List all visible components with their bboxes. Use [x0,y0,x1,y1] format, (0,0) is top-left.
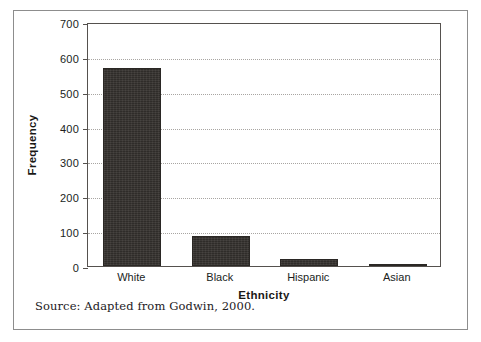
plot-area: 0100200300400500600700 [87,23,441,267]
x-axis-tick-label: White [87,271,176,283]
y-axis-tick [83,24,88,25]
y-axis-tick-label: 700 [60,18,79,30]
y-axis-tick [83,59,88,60]
y-axis-tick [83,163,88,164]
y-axis-title: Frequency [26,115,38,176]
source-note: Source: Adapted from Godwin, 2000. [35,299,255,313]
y-axis-tick [83,233,88,234]
x-axis-tick-label: Asian [353,271,442,283]
y-axis-tick-label: 500 [60,88,79,100]
figure-frame: Frequency 0100200300400500600700 WhiteBl… [13,10,468,330]
y-axis-tick-label: 400 [60,123,79,135]
x-axis-tick-label: Hispanic [264,271,353,283]
y-axis-tick [83,94,88,95]
y-axis-tick-label: 100 [60,227,79,239]
y-axis-tick [83,268,88,269]
y-axis-tick [83,198,88,199]
bar-hispanic [280,259,338,266]
bar-chart: Frequency 0100200300400500600700 WhiteBl… [14,11,469,291]
bar-white [103,68,161,266]
y-axis-tick-label: 600 [60,53,79,65]
y-axis-tick-label: 0 [73,262,79,274]
x-axis-tick-label: Black [176,271,265,283]
y-axis-tick [83,129,88,130]
bar-asian [369,264,427,266]
gridline [88,59,440,60]
bar-black [192,236,250,266]
y-axis-tick-label: 200 [60,192,79,204]
y-axis-tick-label: 300 [60,157,79,169]
